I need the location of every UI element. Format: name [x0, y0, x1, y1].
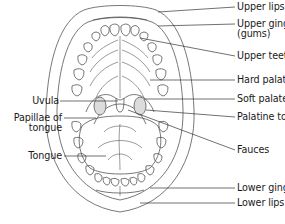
label-hard-palate: Hard palate [237, 75, 285, 85]
label-lower-gingiva: Lower gingiva [237, 183, 285, 193]
label-soft-palate: Soft palate [237, 94, 285, 104]
label-uvula: Uvula [0, 96, 59, 106]
label-lower-lips: Lower lips [237, 198, 284, 208]
lower-teeth-row [72, 121, 168, 186]
label-upper-teeth: Upper teeth [237, 51, 285, 61]
label-upper-lips: Upper lips [237, 2, 285, 12]
label-fauces: Fauces [237, 145, 269, 155]
left-tonsil [94, 97, 106, 115]
label-tongue: Tongue [0, 151, 62, 161]
label-palatine-tonsil: Palatine tonsil [237, 112, 285, 122]
right-tonsil [134, 97, 146, 115]
tongue-midline [119, 124, 120, 170]
label-papillae-of-tongue-2: tongue [0, 123, 62, 133]
hard-palate-ridges [90, 36, 150, 98]
label-upper-gingiva-gums: (gums) [237, 29, 270, 39]
